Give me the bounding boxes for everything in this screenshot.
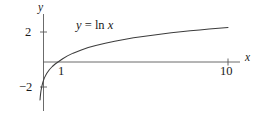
curve-equation-label: y = ln x bbox=[76, 19, 113, 32]
equation-argument: x bbox=[108, 18, 114, 32]
plot-canvas bbox=[0, 0, 261, 114]
logarithm-figure: y x 2 −2 1 10 y = ln x bbox=[0, 0, 261, 114]
equation-function-name: ln bbox=[95, 18, 105, 32]
x-axis-label: x bbox=[245, 52, 250, 64]
y-axis-label: y bbox=[38, 2, 43, 14]
ln-curve bbox=[40, 28, 228, 101]
y-tick-label-2: 2 bbox=[25, 26, 31, 39]
y-tick-label-negative-2: −2 bbox=[19, 81, 32, 94]
x-tick-label-10: 10 bbox=[220, 65, 233, 78]
x-tick-label-1: 1 bbox=[58, 65, 64, 78]
equation-equals-sign: = bbox=[85, 18, 92, 32]
